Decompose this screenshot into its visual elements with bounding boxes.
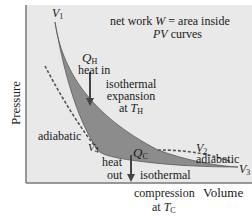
isothermal-compression-temp: at TC [152, 201, 176, 217]
isothermal-expansion-temp: at TH [101, 102, 161, 118]
qc-label: QC [133, 147, 148, 163]
pv-symbol: PV [153, 27, 168, 41]
area-inside-text: = area inside [165, 14, 229, 28]
net-work-text: net work [110, 14, 155, 28]
v1-label: V1 [52, 7, 63, 23]
heat-out-line2: out [107, 169, 122, 181]
isothermal-compression-line2: compression [134, 187, 195, 199]
curves-text: curves [168, 27, 202, 41]
net-work-annotation: net work W = area inside [110, 15, 230, 27]
y-axis-label: Pressure [8, 73, 24, 133]
pv-curves-annotation: PV curves [153, 28, 202, 40]
x-axis-label: Volume [203, 187, 243, 199]
heat-in-label: heat in [78, 64, 110, 76]
v4-label: V4 [88, 141, 99, 157]
isothermal-compression-line1: isothermal [140, 169, 191, 181]
adiabatic-right-label: adiabatic [196, 153, 239, 165]
adiabatic-left-label: adiabatic [38, 130, 81, 142]
work-symbol: W [155, 14, 165, 28]
heat-out-arrowhead [127, 174, 135, 182]
v3-label: V3 [239, 163, 250, 179]
heat-out-line1: heat [102, 156, 122, 168]
